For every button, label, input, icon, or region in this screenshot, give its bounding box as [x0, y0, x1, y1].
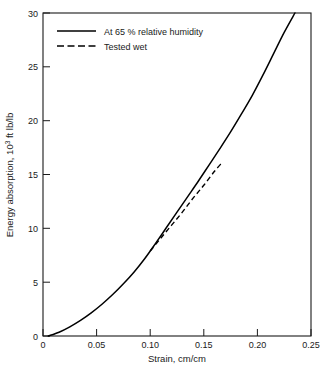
svg-text:Energy absorption, 103 ft lb/l: Energy absorption, 103 ft lb/lb — [4, 113, 16, 238]
chart-figure: 0 0.05 0.10 0.15 0.20 0.25 0 5 10 15 20 … — [0, 0, 324, 373]
series-line-at-65-percent-relative-humidity — [48, 13, 295, 336]
x-axis-title: Strain, cm/cm — [148, 353, 206, 364]
y-tick-label-6: 30 — [28, 9, 38, 19]
y-axis-title-main: Energy absorption, 10 — [4, 144, 15, 237]
y-axis-title: Energy absorption, 103 ft lb/lb — [4, 113, 16, 238]
x-axis-ticks — [43, 329, 311, 336]
x-tick-label-4: 0.20 — [249, 340, 267, 350]
y-tick-label-3: 15 — [28, 170, 38, 180]
legend-label-at-65-percent-relative-humidity: At 65 % relative humidity — [104, 27, 204, 37]
legend: At 65 % relative humidity Tested wet — [57, 27, 204, 52]
y-axis-tick-labels: 0 5 10 15 20 25 30 — [28, 9, 38, 342]
y-tick-label-4: 20 — [28, 116, 38, 126]
y-tick-label-0: 0 — [33, 332, 38, 342]
legend-label-tested-wet: Tested wet — [104, 42, 148, 52]
chart-canvas: 0 0.05 0.10 0.15 0.20 0.25 0 5 10 15 20 … — [0, 0, 324, 373]
x-tick-label-3: 0.15 — [195, 340, 213, 350]
plot-frame — [43, 13, 311, 336]
x-tick-label-0: 0 — [40, 340, 45, 350]
y-tick-label-1: 5 — [33, 278, 38, 288]
x-tick-label-2: 0.10 — [141, 340, 159, 350]
y-axis-ticks — [43, 13, 50, 336]
data-series-group — [48, 13, 295, 336]
x-tick-label-1: 0.05 — [88, 340, 106, 350]
x-axis-tick-labels: 0 0.05 0.10 0.15 0.20 0.25 — [40, 340, 319, 350]
x-tick-label-5: 0.25 — [302, 340, 320, 350]
plot-border — [43, 13, 311, 336]
y-tick-label-5: 25 — [28, 62, 38, 72]
y-axis-title-tail: ft lb/lb — [4, 113, 15, 141]
series-line-tested-wet — [150, 163, 222, 251]
y-tick-label-2: 10 — [28, 224, 38, 234]
